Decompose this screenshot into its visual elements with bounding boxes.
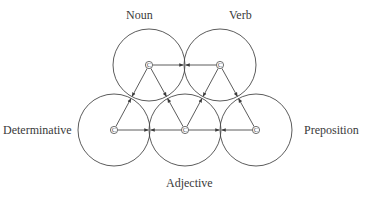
arrow-verb-to-adjective [203, 69, 218, 97]
word-class-diagram: CCCCC Noun Verb Determinative Adjective … [0, 0, 367, 197]
determinative-node-icon: C [110, 126, 117, 133]
verb-node-icon: C [216, 61, 223, 68]
svg-text:C: C [218, 61, 222, 68]
arrow-adjective-to-verb [187, 99, 202, 127]
arrow-noun-to-determinative [132, 69, 147, 97]
preposition-label: Preposition [304, 124, 359, 136]
diagram-canvas: CCCCC [0, 0, 367, 197]
svg-text:C: C [147, 61, 151, 68]
adjective-node-icon: C [181, 126, 188, 133]
adjective-label: Adjective [166, 177, 213, 189]
noun-label: Noun [126, 9, 153, 21]
verb-label: Verb [229, 9, 252, 21]
determinative-label: Determinative [3, 124, 72, 136]
arrow-verb-to-preposition [222, 68, 237, 96]
arrow-adjective-to-noun [168, 99, 183, 127]
svg-text:C: C [112, 126, 116, 133]
noun-node-icon: C [145, 61, 152, 68]
circles-layer [78, 29, 292, 166]
preposition-node-icon: C [252, 126, 259, 133]
arrow-determinative-to-noun [116, 99, 131, 127]
svg-text:C: C [254, 126, 258, 133]
svg-text:C: C [183, 126, 187, 133]
arrow-preposition-to-verb [239, 99, 254, 127]
arrow-noun-to-adjective [151, 68, 166, 96]
